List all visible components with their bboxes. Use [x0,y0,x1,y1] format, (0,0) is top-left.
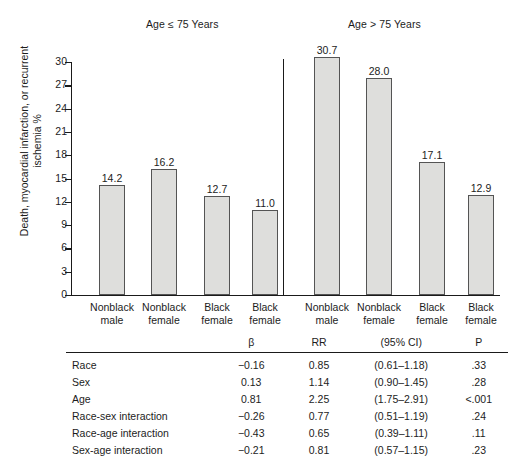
row-label: Race-sex interaction [66,408,217,425]
table-row: Race-sex interaction−0.260.77(0.51–1.19)… [66,408,508,425]
bar-value-label: 17.1 [422,149,442,161]
row-label: Sex [66,374,217,391]
table-header-p: P [450,336,508,353]
bar[interactable]: 28.0 [366,78,392,295]
row-ci: (0.57–1.15) [353,442,450,459]
bar[interactable]: 14.2 [99,185,125,295]
y-axis-label: Death, myocardial infarction, or recurre… [18,41,44,241]
row-ci: (0.39–1.11) [353,425,450,442]
row-p: .33 [450,353,508,374]
table-header-row: β RR (95% CI) P [66,336,508,353]
bar[interactable]: 16.2 [151,169,177,295]
table-header-ci: (95% CI) [353,336,450,353]
bar[interactable]: 11.0 [252,210,278,295]
row-rr: 0.77 [285,408,353,425]
row-rr: 0.65 [285,425,353,442]
table-row: Race−0.160.85(0.61–1.18).33 [66,353,508,374]
row-beta: 0.13 [217,374,285,391]
row-rr: 2.25 [285,391,353,408]
figure-container: Age ≤ 75 Years Age > 75 Years Death, myo… [0,0,516,471]
row-p: <.001 [450,391,508,408]
bar-value-label: 30.7 [317,44,337,56]
table-row: Race-age interaction−0.430.65(0.39–1.11)… [66,425,508,442]
row-beta: 0.81 [217,391,285,408]
row-beta: −0.26 [217,408,285,425]
bar-value-label: 16.2 [154,156,174,168]
row-label: Age [66,391,217,408]
bar-value-label: 28.0 [369,65,389,77]
category-label: Blackfemale [445,301,516,326]
bar[interactable]: 12.7 [204,196,230,295]
y-tick-label: 18 [55,148,67,160]
row-beta: −0.16 [217,353,285,374]
y-tick-label: 3 [61,265,67,277]
row-ci: (0.90–1.45) [353,374,450,391]
panel-title-right: Age > 75 Years [348,18,421,30]
y-tick-label: 0 [61,288,67,300]
row-p: .23 [450,442,508,459]
y-tick-label: 27 [55,78,67,90]
panel-divider-line [283,59,284,295]
row-label: Race-age interaction [66,425,217,442]
y-tick-label: 24 [55,102,67,114]
row-p: .11 [450,425,508,442]
bar[interactable]: 17.1 [419,162,445,295]
table-row: Sex-age interaction−0.210.81(0.57–1.15).… [66,442,508,459]
y-tick-label: 6 [61,241,67,253]
table-header-rr: RR [285,336,353,353]
table-row: Age0.812.25(1.75–2.91)<.001 [66,391,508,408]
bar[interactable]: 12.9 [468,195,494,295]
y-axis-line [71,62,72,295]
row-label: Sex-age interaction [66,442,217,459]
bar-value-label: 14.2 [102,172,122,184]
row-ci: (1.75–2.91) [353,391,450,408]
table-header-label [66,336,217,353]
x-axis-line [71,295,500,296]
plot-area: 036912151821242730 14.216.212.711.030.72… [71,56,500,301]
bar-value-label: 12.9 [471,182,491,194]
row-rr: 0.81 [285,442,353,459]
row-p: .24 [450,408,508,425]
bar-value-label: 12.7 [207,183,227,195]
row-ci: (0.61–1.18) [353,353,450,374]
y-tick-label: 15 [55,172,67,184]
panel-title-left: Age ≤ 75 Years [146,18,219,30]
row-rr: 1.14 [285,374,353,391]
row-rr: 0.85 [285,353,353,374]
table-header-beta: β [217,336,285,353]
row-p: .28 [450,374,508,391]
y-tick-label: 30 [55,55,67,67]
table-body: Race−0.160.85(0.61–1.18).33Sex0.131.14(0… [66,353,508,459]
bar[interactable]: 30.7 [314,57,340,295]
row-ci: (0.51–1.19) [353,408,450,425]
bar-value-label: 11.0 [255,197,275,209]
statistics-table: β RR (95% CI) P Race−0.160.85(0.61–1.18)… [66,336,508,459]
y-tick-label: 12 [55,195,67,207]
category-label-line: Black [445,301,516,314]
y-tick-label: 21 [55,125,67,137]
table-row: Sex0.131.14(0.90–1.45).28 [66,374,508,391]
row-beta: −0.43 [217,425,285,442]
row-label: Race [66,353,217,374]
row-beta: −0.21 [217,442,285,459]
y-tick-label: 9 [61,218,67,230]
category-label-line: female [445,314,516,327]
